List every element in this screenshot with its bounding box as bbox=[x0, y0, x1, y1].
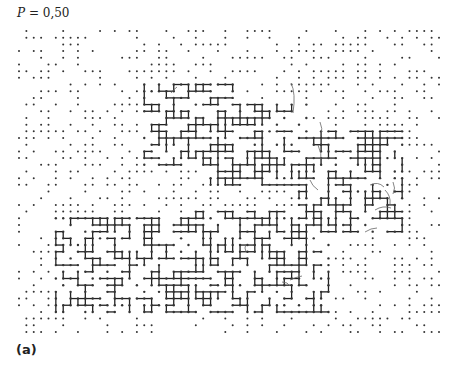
lattice-site bbox=[364, 77, 366, 79]
lattice-site bbox=[261, 284, 263, 286]
lattice-site bbox=[180, 237, 182, 239]
lattice-site bbox=[180, 117, 182, 119]
lattice-site bbox=[379, 304, 381, 306]
lattice-site bbox=[217, 43, 219, 45]
lattice-site bbox=[371, 170, 373, 172]
lattice-site bbox=[364, 177, 366, 179]
lattice-site bbox=[394, 331, 396, 333]
lattice-site bbox=[165, 277, 167, 279]
lattice-site bbox=[364, 257, 366, 259]
lattice-site bbox=[357, 70, 359, 72]
lattice-site bbox=[158, 164, 160, 166]
lattice-site bbox=[268, 210, 270, 212]
lattice-site bbox=[173, 230, 175, 232]
lattice-site bbox=[224, 117, 226, 119]
lattice-site bbox=[327, 137, 329, 139]
lattice-site bbox=[99, 264, 101, 266]
lattice-site bbox=[55, 204, 57, 206]
lattice-site bbox=[268, 170, 270, 172]
lattice-site bbox=[180, 311, 182, 313]
lattice-site bbox=[187, 97, 189, 99]
lattice-site bbox=[438, 150, 440, 152]
lattice-site bbox=[320, 70, 322, 72]
lattice-site bbox=[173, 224, 175, 226]
lattice-site bbox=[379, 30, 381, 32]
lattice-site bbox=[158, 90, 160, 92]
lattice-site bbox=[261, 251, 263, 253]
lattice-site bbox=[209, 277, 211, 279]
lattice-site bbox=[25, 70, 27, 72]
lattice-site bbox=[114, 257, 116, 259]
lattice-site bbox=[151, 170, 153, 172]
lattice-site bbox=[283, 57, 285, 59]
lattice-site bbox=[298, 277, 300, 279]
lattice-site bbox=[209, 251, 211, 253]
lattice-site bbox=[335, 43, 337, 45]
lattice-site bbox=[342, 251, 344, 253]
lattice-site bbox=[40, 331, 42, 333]
lattice-site bbox=[409, 137, 411, 139]
lattice-site bbox=[165, 137, 167, 139]
lattice-site bbox=[173, 37, 175, 39]
lattice-site bbox=[114, 291, 116, 293]
lattice-site bbox=[143, 277, 145, 279]
lattice-site bbox=[438, 177, 440, 179]
lattice-site bbox=[239, 164, 241, 166]
lattice-site bbox=[128, 277, 130, 279]
lattice-site bbox=[239, 297, 241, 299]
lattice-site bbox=[77, 63, 79, 65]
lattice-site bbox=[239, 137, 241, 139]
lattice-site bbox=[217, 244, 219, 246]
lattice-site bbox=[335, 224, 337, 226]
lattice-site bbox=[231, 130, 233, 132]
lattice-site bbox=[231, 103, 233, 105]
lattice-site bbox=[69, 224, 71, 226]
lattice-site bbox=[342, 204, 344, 206]
lattice-site bbox=[394, 124, 396, 126]
lattice-site bbox=[350, 324, 352, 326]
lattice-site bbox=[180, 271, 182, 273]
lattice-site bbox=[224, 291, 226, 293]
lattice-site bbox=[386, 144, 388, 146]
lattice-site bbox=[246, 244, 248, 246]
lattice-site bbox=[371, 190, 373, 192]
lattice-site bbox=[217, 257, 219, 259]
lattice-site bbox=[91, 311, 93, 313]
lattice-site bbox=[136, 324, 138, 326]
lattice-site bbox=[187, 297, 189, 299]
lattice-site bbox=[357, 331, 359, 333]
lattice-site bbox=[165, 297, 167, 299]
lattice-site bbox=[357, 164, 359, 166]
lattice-site bbox=[401, 84, 403, 86]
lattice-site bbox=[305, 197, 307, 199]
lattice-site bbox=[165, 110, 167, 112]
lattice-site bbox=[254, 103, 256, 105]
lattice-site bbox=[276, 210, 278, 212]
lattice-site bbox=[136, 130, 138, 132]
lattice-site bbox=[217, 264, 219, 266]
lattice-site bbox=[416, 231, 418, 233]
lattice-site bbox=[261, 217, 263, 219]
lattice-site bbox=[261, 277, 263, 279]
lattice-site bbox=[136, 90, 138, 92]
lattice-site bbox=[276, 271, 278, 273]
lattice-site bbox=[409, 311, 411, 313]
lattice-site bbox=[305, 90, 307, 92]
lattice-site bbox=[305, 311, 307, 313]
lattice-site bbox=[129, 57, 131, 59]
lattice-site bbox=[254, 177, 256, 179]
lattice-site bbox=[416, 117, 418, 119]
lattice-site bbox=[364, 170, 366, 172]
lattice-site bbox=[327, 84, 329, 86]
lattice-site bbox=[372, 117, 374, 119]
lattice-site bbox=[327, 184, 329, 186]
lattice-site bbox=[268, 184, 270, 186]
lattice-site bbox=[195, 271, 197, 273]
lattice-site bbox=[121, 297, 123, 299]
lattice-site bbox=[431, 50, 433, 52]
lattice-site bbox=[364, 291, 366, 293]
lattice-site bbox=[313, 311, 315, 313]
lattice-site bbox=[77, 244, 79, 246]
lattice-site bbox=[40, 90, 42, 92]
lattice-site bbox=[283, 297, 285, 299]
